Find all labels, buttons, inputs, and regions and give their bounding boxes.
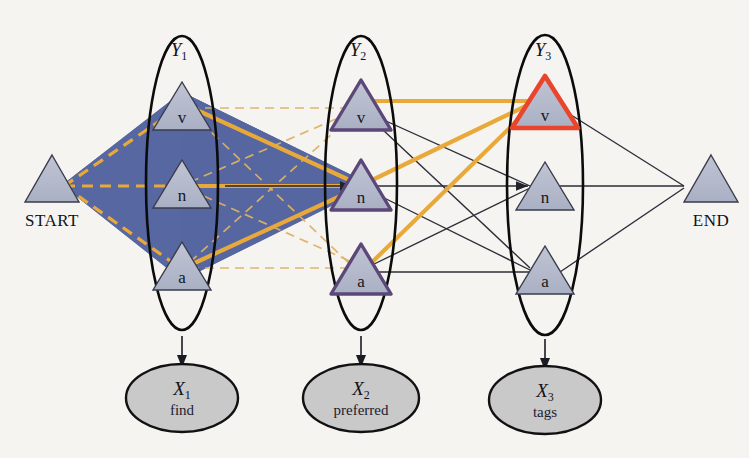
state-y2-v[interactable]: v	[331, 80, 391, 130]
edge-y2a-y3v-best	[364, 110, 528, 270]
state-y3-n-label: n	[541, 188, 550, 207]
observed-x3-word: tags	[533, 404, 557, 420]
start-label: START	[25, 211, 79, 230]
plate-label-y1: Y1	[171, 39, 188, 63]
plate-labels: Y1 Y2 Y3	[171, 39, 552, 63]
edge-y2a-y3n	[366, 188, 530, 268]
end-node[interactable]: END	[684, 155, 738, 230]
observed-x1[interactable]: X1 find	[126, 364, 238, 432]
state-y1-n-label: n	[178, 186, 187, 205]
state-y1-v-label: v	[178, 108, 187, 127]
end-triangle	[684, 155, 738, 202]
state-y2-a-label: a	[357, 272, 365, 291]
plate-label-y2: Y2	[350, 39, 367, 63]
edge-y2n-y3v-best	[366, 105, 528, 183]
state-y2-n-label: n	[357, 188, 366, 207]
start-node[interactable]: START	[25, 155, 79, 230]
observed-x2[interactable]: X2 preferred	[303, 364, 419, 432]
observed-nodes: X1 find X2 preferred X3 tags	[126, 364, 601, 434]
edge-y2v-y3n	[366, 112, 530, 186]
state-y3-a-label: a	[541, 272, 549, 291]
state-y2-v-label: v	[357, 108, 366, 127]
plate-label-y3: Y3	[535, 39, 552, 63]
observed-x3[interactable]: X3 tags	[489, 366, 601, 434]
state-y3-a[interactable]: a	[516, 246, 574, 294]
observed-x1-word: find	[170, 402, 195, 418]
observed-x2-word: preferred	[334, 402, 389, 418]
diagram-canvas: Y1 Y2 Y3 START END v n a	[0, 0, 749, 458]
trellis-diagram: Y1 Y2 Y3 START END v n a	[0, 0, 749, 458]
state-y1-a-label: a	[178, 268, 186, 287]
end-label: END	[693, 211, 729, 230]
state-y3-v-label: v	[541, 106, 550, 125]
